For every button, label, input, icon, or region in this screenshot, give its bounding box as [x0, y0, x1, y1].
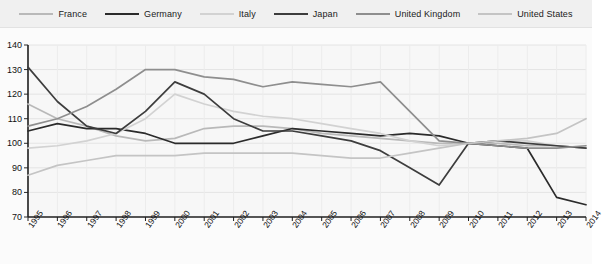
y-axis-tick-label: 140: [0, 40, 22, 50]
legend-item-label: United States: [517, 9, 572, 19]
plot-area: 1401301201101009080701995199619971998199…: [0, 27, 592, 264]
y-axis-tick-label: 90: [0, 163, 22, 173]
legend-item-label: Italy: [239, 9, 256, 19]
legend-item-italy[interactable]: Italy: [200, 9, 256, 19]
y-axis-tick-label: 110: [0, 114, 22, 124]
legend-item-label: Japan: [313, 9, 338, 19]
legend-item-united-kingdom[interactable]: United Kingdom: [356, 9, 460, 19]
legend-item-united-states[interactable]: United States: [478, 9, 572, 19]
legend-item-japan[interactable]: Japan: [274, 9, 338, 19]
legend-item-france[interactable]: France: [19, 9, 87, 19]
legend-line-icon: [478, 13, 512, 15]
legend-line-icon: [356, 13, 390, 15]
y-axis-tick-label: 80: [0, 187, 22, 197]
y-axis-tick-label: 70: [0, 212, 22, 222]
legend-item-label: Germany: [144, 9, 182, 19]
y-axis-tick-label: 100: [0, 138, 22, 148]
chart-legend: FranceGermanyItalyJapanUnited KingdomUni…: [0, 0, 592, 28]
legend-line-icon: [274, 13, 308, 15]
legend-item-germany[interactable]: Germany: [105, 9, 182, 19]
legend-item-label: United Kingdom: [395, 9, 460, 19]
legend-line-icon: [200, 13, 234, 15]
y-axis-tick-label: 130: [0, 65, 22, 75]
legend-item-label: France: [58, 9, 87, 19]
legend-line-icon: [19, 13, 53, 15]
y-axis-tick-label: 120: [0, 89, 22, 99]
legend-line-icon: [105, 13, 139, 15]
